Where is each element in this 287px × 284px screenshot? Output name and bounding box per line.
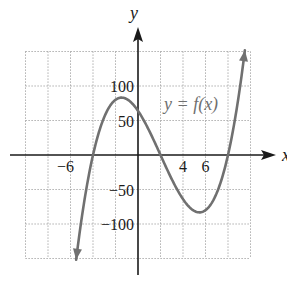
y-tick-label: −100 — [101, 216, 134, 233]
x-tick-label: −6 — [57, 158, 74, 175]
y-tick-label: −50 — [109, 182, 134, 199]
y-tick-label: 50 — [118, 113, 134, 130]
y-tick-label: 100 — [110, 78, 134, 95]
function-graph: 10050−50−100−646 y x y = f(x) — [0, 0, 287, 284]
axes — [10, 27, 276, 275]
x-tick-label: 4 — [179, 158, 187, 175]
curve-label: y = f(x) — [162, 94, 218, 115]
y-axis-label: y — [128, 3, 138, 23]
x-axis-label: x — [281, 145, 287, 165]
x-tick-label: 6 — [202, 158, 210, 175]
